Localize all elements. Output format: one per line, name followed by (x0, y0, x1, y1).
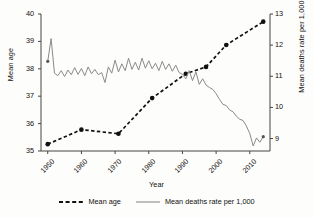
data-series-group (45, 19, 265, 146)
legend-label: Mean deaths rate per 1,000 (165, 197, 255, 206)
chart-legend: Mean ageMean deaths rate per 1,000 (0, 197, 313, 206)
legend-item-1[interactable]: Mean deaths rate per 1,000 (135, 197, 255, 206)
data-point-marker (262, 135, 265, 138)
data-point-marker (79, 127, 84, 132)
legend-key-icon (135, 198, 161, 206)
axes-lines (38, 14, 273, 154)
legend-key-icon (58, 198, 84, 206)
series-line-0 (48, 22, 264, 144)
data-point-marker (150, 96, 155, 101)
chart-figure: Mean age Mean deaths rate per 1,000 Year… (0, 0, 313, 218)
legend-item-0[interactable]: Mean age (58, 197, 120, 206)
data-point-marker (45, 142, 50, 147)
plot-area (0, 0, 313, 218)
data-point-marker (261, 19, 266, 24)
data-point-marker (204, 65, 209, 70)
legend-label: Mean age (88, 197, 120, 206)
data-point-marker (116, 131, 121, 136)
data-point-marker (224, 43, 229, 48)
data-point-marker (46, 60, 49, 63)
